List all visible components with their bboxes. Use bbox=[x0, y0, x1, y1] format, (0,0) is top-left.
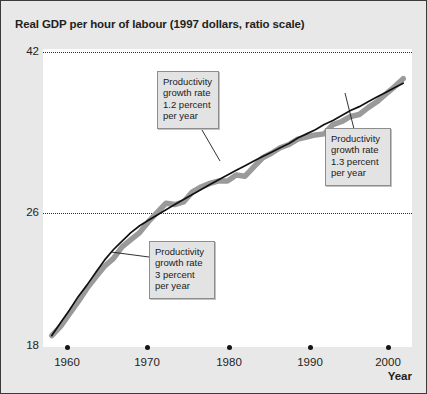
y-axis-ticks: 42 26 18 bbox=[1, 1, 39, 394]
x-tick-label-1960: 1960 bbox=[54, 356, 80, 368]
x-tick-label-1990: 1990 bbox=[297, 356, 323, 368]
plot-area bbox=[43, 49, 412, 347]
y-tick-label-26: 26 bbox=[26, 206, 39, 218]
y-tick-label-42: 42 bbox=[26, 45, 39, 57]
gridline-42 bbox=[43, 52, 412, 54]
y-tick-label-18: 18 bbox=[26, 339, 39, 351]
x-tick-dot-1980 bbox=[227, 345, 232, 350]
x-tick-dot-1990 bbox=[308, 345, 313, 350]
page-title: Real GDP per hour of labour (1997 dollar… bbox=[15, 18, 305, 30]
callout-1-3-percent: Productivity growth rate 1.3 percent per… bbox=[325, 128, 391, 186]
x-tick-dot-1970 bbox=[145, 345, 150, 350]
x-tick-label-1980: 1980 bbox=[216, 356, 242, 368]
gridline-26 bbox=[43, 213, 412, 215]
x-tick-label-1970: 1970 bbox=[134, 356, 160, 368]
callout-1-2-percent: Productivity growth rate 1.2 percent per… bbox=[157, 71, 219, 129]
x-axis-title: Year bbox=[388, 370, 412, 382]
x-tick-label-2000: 2000 bbox=[375, 356, 401, 368]
x-tick-dot-2000 bbox=[386, 345, 391, 350]
callout-3-percent: Productivity growth rate 3 percent per y… bbox=[149, 241, 215, 299]
figure-container: Real GDP per hour of labour (1997 dollar… bbox=[0, 0, 427, 394]
x-tick-dot-1960 bbox=[65, 345, 70, 350]
